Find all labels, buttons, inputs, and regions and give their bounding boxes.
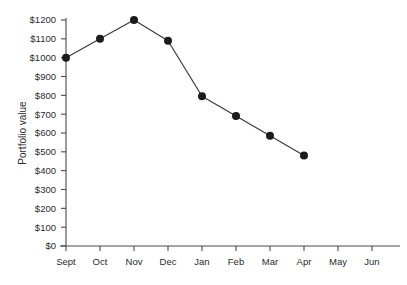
y-tick-label: $200	[35, 203, 56, 214]
y-tick-label: $600	[35, 127, 56, 138]
y-tick-label: $400	[35, 165, 56, 176]
y-tick-label: $300	[35, 184, 56, 195]
y-tick-label: $1200	[30, 14, 56, 25]
x-tick-label: Nov	[126, 256, 143, 267]
y-tick-label: $100	[35, 222, 56, 233]
y-tick-label: $1100	[30, 33, 56, 44]
x-tick-label: Mar	[262, 256, 278, 267]
data-point-marker	[96, 35, 104, 43]
data-point-marker	[164, 37, 172, 45]
data-point-marker	[62, 54, 70, 62]
x-tick-label: Sept	[56, 256, 76, 267]
x-tick-label: Dec	[160, 256, 177, 267]
y-tick-label: $1000	[30, 52, 56, 63]
x-tick-label: Jun	[364, 256, 379, 267]
data-point-marker	[300, 152, 308, 160]
data-point-marker	[198, 92, 206, 100]
data-point-marker	[232, 112, 240, 120]
y-tick-label: $500	[35, 146, 56, 157]
data-point-marker	[130, 16, 138, 24]
x-tick-label: Oct	[93, 256, 108, 267]
y-tick-label: $0	[45, 240, 56, 251]
y-axis-title: Portfolio value	[17, 101, 28, 165]
x-tick-label: Jan	[194, 256, 209, 267]
portfolio-value-line-chart: $0$100$200$300$400$500$600$700$800$900$1…	[0, 0, 407, 285]
y-tick-label: $700	[35, 109, 56, 120]
y-tick-label: $900	[35, 71, 56, 82]
chart-plot-area: $0$100$200$300$400$500$600$700$800$900$1…	[0, 0, 407, 285]
data-point-marker	[266, 132, 274, 140]
x-tick-label: May	[329, 256, 347, 267]
x-tick-label: Feb	[228, 256, 244, 267]
x-tick-label: Apr	[297, 256, 312, 267]
y-tick-label: $800	[35, 90, 56, 101]
